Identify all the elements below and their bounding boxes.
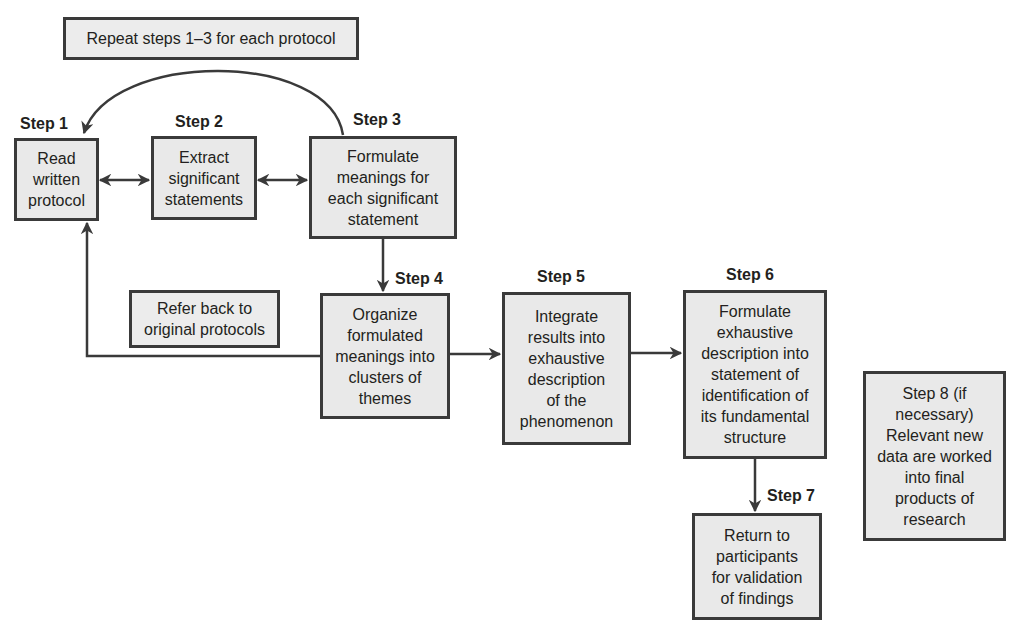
step-2-box: Extract significant statements	[151, 136, 257, 220]
step-3-label: Step 3	[353, 111, 401, 129]
step-4-label: Step 4	[395, 270, 443, 288]
step-2-label: Step 2	[175, 113, 223, 131]
step-5-box: Integrate results into exhaustive descri…	[502, 292, 631, 445]
refer-back-note: Refer back to original protocols	[129, 290, 280, 348]
step-5-label: Step 5	[537, 268, 585, 286]
step-3-box: Formulate meanings for each significant …	[309, 136, 457, 239]
step-7-label: Step 7	[767, 487, 815, 505]
step-1-label: Step 1	[20, 115, 68, 133]
step-8-box: Step 8 (if necessary) Relevant new data …	[863, 371, 1006, 541]
step-1-box: Read written protocol	[14, 138, 99, 221]
step-6-label: Step 6	[726, 266, 774, 284]
step-7-box: Return to participants for validation of…	[692, 513, 822, 620]
repeat-note: Repeat steps 1–3 for each protocol	[63, 17, 359, 60]
step-4-box: Organize formulated meanings into cluste…	[320, 293, 450, 419]
step-6-box: Formulate exhaustive description into st…	[683, 290, 827, 459]
